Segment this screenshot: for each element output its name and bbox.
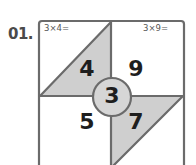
equation-top-right: 3×9=	[143, 23, 168, 33]
quadrant-top-right-value: 9	[124, 57, 148, 81]
center-value: 3	[100, 84, 124, 108]
equation-top-left: 3×4=	[44, 23, 69, 33]
quadrant-bottom-left-value: 5	[75, 110, 99, 134]
quadrant-top-left-value: 4	[75, 57, 99, 81]
quadrant-bottom-right-value: 7	[124, 110, 148, 134]
